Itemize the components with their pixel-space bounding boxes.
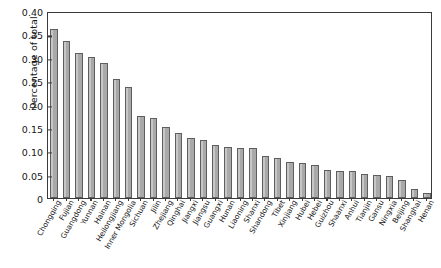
x-axis-labels: ChongqingFujianGuangdongYunnanHainanHeil… <box>47 199 432 268</box>
bar <box>349 171 356 198</box>
bar <box>88 57 95 198</box>
bar <box>162 127 169 198</box>
bars-group <box>48 13 431 198</box>
bar-chart: Percentage of total 00.050.100.150.200.2… <box>0 0 441 268</box>
y-tick-label: 0.25 <box>22 78 48 88</box>
bar <box>50 29 57 198</box>
y-tick-label: 0.15 <box>22 125 48 135</box>
y-tick-mark <box>48 59 52 60</box>
bar <box>100 63 107 198</box>
bar <box>125 87 132 198</box>
bar <box>373 175 380 198</box>
bar <box>237 148 244 198</box>
bar <box>336 171 343 198</box>
y-axis-title: Percentage of total <box>28 0 39 143</box>
bar <box>274 158 281 198</box>
bar <box>75 53 82 198</box>
bar <box>150 118 157 198</box>
y-tick-label: 0.20 <box>22 102 48 112</box>
y-tick-mark <box>48 83 52 84</box>
y-tick-label: 0.40 <box>22 8 48 18</box>
bar <box>224 147 231 198</box>
bar <box>187 138 194 198</box>
bar <box>299 163 306 198</box>
bar <box>286 162 293 198</box>
bar <box>262 156 269 198</box>
bar <box>398 180 405 198</box>
bar <box>63 41 70 198</box>
bar <box>175 133 182 198</box>
y-tick-label: 0.35 <box>22 32 48 42</box>
y-tick-label: 0.30 <box>22 55 48 65</box>
y-tick-label: 0.10 <box>22 149 48 159</box>
y-tick-mark <box>48 106 52 107</box>
y-tick-label: 0.05 <box>22 172 48 182</box>
bar <box>249 148 256 198</box>
y-tick-mark <box>48 129 52 130</box>
y-tick-mark <box>48 36 52 37</box>
bar <box>361 174 368 198</box>
bar <box>386 176 393 198</box>
plot-area: 00.050.100.150.200.250.300.350.40 <box>47 12 432 199</box>
bar <box>200 140 207 198</box>
bar <box>411 189 418 198</box>
y-tick-mark <box>48 176 52 177</box>
bar <box>113 79 120 198</box>
bar <box>324 170 331 198</box>
bar <box>311 165 318 198</box>
bar <box>137 116 144 198</box>
bar <box>212 145 219 198</box>
y-tick-mark <box>48 153 52 154</box>
